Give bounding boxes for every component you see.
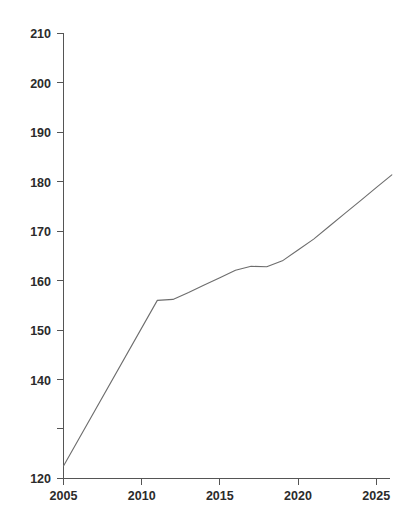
x-tick-label-2020: 2020: [284, 489, 312, 503]
y-tick-label-210: 210: [30, 27, 51, 41]
y-tick-label-180: 180: [30, 176, 51, 190]
x-tick-label-2010: 2010: [128, 489, 156, 503]
x-axis-tick-labels: 2005 2010 2015 2020 2025: [50, 489, 391, 503]
y-tick-label-150: 150: [30, 324, 51, 338]
x-tick-label-2005: 2005: [50, 489, 78, 503]
x-axis-ticks: [64, 479, 377, 486]
y-tick-label-170: 170: [30, 225, 51, 239]
y-tick-label-190: 190: [30, 126, 51, 140]
x-tick-label-2025: 2025: [362, 489, 390, 503]
chart-canvas: 210 200 190 180 170 160 150 140 120 2005…: [0, 0, 393, 520]
y-tick-label-160: 160: [30, 275, 51, 289]
y-axis-tick-labels: 210 200 190 180 170 160 150 140 120: [30, 27, 51, 486]
y-tick-label-200: 200: [30, 77, 51, 91]
line-chart-figure: 210 200 190 180 170 160 150 140 120 2005…: [0, 0, 393, 520]
y-tick-label-120: 120: [30, 472, 51, 486]
series-line-1: [64, 175, 392, 466]
y-tick-label-140: 140: [30, 374, 51, 388]
y-axis-ticks: [57, 34, 64, 479]
x-tick-label-2015: 2015: [206, 489, 234, 503]
